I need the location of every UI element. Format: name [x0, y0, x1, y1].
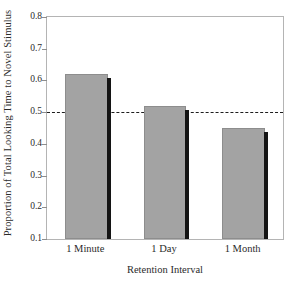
y-tick-label: 0.2: [16, 201, 42, 211]
y-tick-label: 0.1: [16, 233, 42, 243]
y-tick-mark: [42, 80, 47, 81]
x-axis-title: Retention Interval: [46, 264, 284, 275]
y-tick-mark: [42, 112, 47, 113]
bar-3: [222, 128, 265, 239]
y-tick-label: 0.6: [16, 74, 42, 84]
x-tick-label: 1 Minute: [66, 243, 104, 254]
y-tick-mark: [42, 239, 47, 240]
bar-rect: [65, 74, 108, 239]
y-axis-tick-labels: 0.80.70.60.50.40.30.20.1: [16, 16, 42, 240]
x-axis-tick-labels: 1 Minute1 Day1 Month: [46, 243, 284, 257]
bar-shadow: [185, 110, 189, 239]
y-tick-mark: [42, 207, 47, 208]
y-tick-label: 0.7: [16, 43, 42, 53]
y-tick-label: 0.5: [16, 106, 42, 116]
y-tick-label: 0.4: [16, 138, 42, 148]
y-tick-label: 0.8: [16, 11, 42, 21]
y-axis-title: Proportion of Total Looking Time to Nove…: [0, 0, 14, 246]
y-tick-label: 0.3: [16, 170, 42, 180]
bar-rect: [222, 128, 265, 239]
y-tick-mark: [42, 144, 47, 145]
y-tick-mark: [42, 49, 47, 50]
x-tick-label: 1 Day: [151, 243, 176, 254]
bar-rect: [144, 106, 187, 239]
y-tick-mark: [42, 17, 47, 18]
bar-shadow: [264, 132, 268, 239]
plot-area: [46, 16, 284, 240]
y-tick-mark: [42, 176, 47, 177]
bar-1: [65, 74, 108, 239]
bar-shadow: [107, 78, 111, 239]
x-tick-label: 1 Month: [225, 243, 261, 254]
bar-2: [144, 106, 187, 239]
bar-chart-figure: Proportion of Total Looking Time to Nove…: [0, 0, 301, 286]
